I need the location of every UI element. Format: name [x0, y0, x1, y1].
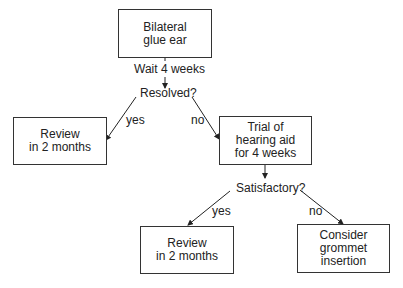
label-wait-4-weeks: Wait 4 weeks [134, 63, 205, 76]
edge-label-satisfactory-no: no [309, 205, 322, 218]
decision-resolved: Resolved? [140, 87, 197, 100]
edge-label-satisfactory-yes: yes [212, 205, 231, 218]
edge-label-resolved-yes: yes [126, 114, 145, 127]
node-bilateral-glue-ear: Bilateral glue ear [118, 9, 212, 58]
node-review-bottom: Review in 2 months [140, 226, 234, 274]
node-review-left: Review in 2 months [13, 117, 107, 165]
decision-satisfactory: Satisfactory? [236, 182, 305, 195]
node-consider-grommet: Consider grommet insertion [297, 224, 390, 273]
node-trial-hearing-aid: Trial of hearing aid for 4 weeks [219, 116, 312, 165]
edge-label-resolved-no: no [191, 114, 204, 127]
